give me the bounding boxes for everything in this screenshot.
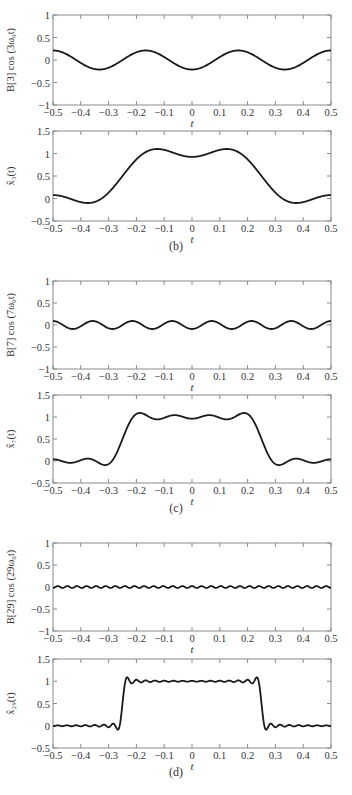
y-tick-label: −0.5 [31, 78, 50, 89]
plot-d-harmonic: −0.5−0.4−0.3−0.2−0.100.10.20.30.40.5−1−0… [5, 538, 338, 655]
x-axis-label: t [190, 117, 194, 129]
x-tick-label: 0.1 [213, 107, 226, 118]
y-tick-label: −0.5 [31, 216, 50, 227]
y-tick-label: −0.5 [31, 604, 50, 615]
x-tick-label: −0.4 [71, 485, 91, 496]
x-tick-label: −0.2 [127, 107, 146, 118]
y-tick-label: 1 [45, 149, 50, 160]
x-tick-label: −0.3 [99, 223, 118, 234]
y-tick-label: 1.5 [37, 654, 50, 665]
x-tick-label: 0.1 [213, 223, 226, 234]
panel-caption-b: (b) [0, 239, 352, 254]
signal-curve [53, 677, 331, 729]
x-tick-label: 0.1 [213, 633, 226, 644]
x-tick-label: −0.4 [71, 371, 91, 382]
x-tick-label: 0.2 [241, 750, 254, 761]
x-tick-label: −0.4 [71, 750, 91, 761]
x-tick-label: 0.5 [324, 750, 337, 761]
x-tick-label: 0.2 [241, 633, 254, 644]
x-tick-label: 0.5 [324, 223, 337, 234]
x-tick-label: 0.4 [297, 223, 311, 234]
signal-curve [53, 413, 331, 465]
y-tick-label: 0 [45, 721, 50, 732]
x-tick-label: 0.4 [297, 107, 311, 118]
y-axis-label: x̂₃(t) [5, 166, 17, 185]
y-axis-label: x̂₂₉(t) [5, 692, 17, 715]
x-tick-label: −0.2 [127, 371, 146, 382]
signal-curve [53, 586, 331, 588]
y-tick-label: 0.5 [37, 33, 50, 44]
signal-curve [53, 149, 331, 203]
x-tick-label: 0.4 [297, 633, 311, 644]
y-tick-label: −0.5 [31, 478, 50, 489]
x-tick-label: 0.3 [269, 223, 282, 234]
x-tick-label: 0.3 [269, 633, 282, 644]
x-tick-label: 0.4 [297, 485, 311, 496]
x-tick-label: −0.3 [99, 371, 118, 382]
x-tick-label: 0.3 [269, 750, 282, 761]
y-tick-label: 0 [45, 320, 50, 331]
plot-b-harmonic: −0.5−0.4−0.3−0.2−0.100.10.20.30.40.5−1−0… [5, 10, 338, 129]
x-axis-label: t [190, 643, 194, 655]
x-tick-label: −0.4 [71, 107, 91, 118]
x-tick-label: −0.4 [71, 223, 91, 234]
x-tick-label: 0.2 [241, 107, 254, 118]
y-tick-label: 0.5 [37, 171, 50, 182]
x-tick-label: 0.5 [324, 107, 337, 118]
y-tick-label: −0.5 [31, 743, 50, 754]
signal-curve [53, 50, 331, 69]
plot-frame [53, 281, 331, 369]
y-tick-label: 0 [45, 456, 50, 467]
x-tick-label: −0.1 [155, 485, 174, 496]
x-tick-label: 0.5 [324, 485, 337, 496]
y-tick-label: 1.5 [37, 390, 50, 401]
x-tick-label: −0.1 [155, 750, 174, 761]
x-tick-label: −0.1 [155, 107, 174, 118]
y-tick-label: 0.5 [37, 560, 50, 571]
y-tick-label: 0 [45, 582, 50, 593]
y-tick-label: 0.5 [37, 298, 50, 309]
x-tick-label: 0.2 [241, 485, 254, 496]
y-tick-label: 1 [45, 10, 50, 21]
x-tick-label: −0.1 [155, 633, 174, 644]
y-tick-label: 1 [45, 538, 50, 549]
y-tick-label: −1 [39, 100, 50, 111]
plot-frame [53, 659, 331, 748]
x-tick-label: −0.3 [99, 485, 118, 496]
y-tick-label: 1 [45, 276, 50, 287]
x-tick-label: 0.5 [324, 371, 337, 382]
x-tick-label: −0.2 [127, 633, 146, 644]
y-tick-label: 1.5 [37, 126, 50, 137]
x-tick-label: 0.2 [241, 223, 254, 234]
y-axis-label: B[7] cos (7ω₀t) [5, 292, 17, 357]
y-tick-label: −0.5 [31, 342, 50, 353]
x-tick-label: −0.2 [127, 223, 146, 234]
plot-c-partial-sum: −0.5−0.4−0.3−0.2−0.100.10.20.30.40.5−0.5… [5, 390, 338, 507]
y-axis-label: B[3] cos (3ω₀t) [5, 27, 17, 92]
plot-b-partial-sum: −0.5−0.4−0.3−0.2−0.100.10.20.30.40.5−0.5… [5, 126, 338, 245]
x-tick-label: −0.2 [127, 485, 146, 496]
x-tick-label: 0.4 [297, 371, 311, 382]
x-tick-label: 0.1 [213, 750, 226, 761]
x-axis-label: t [190, 381, 194, 393]
y-tick-label: 1 [45, 412, 50, 423]
y-tick-label: 0.5 [37, 434, 50, 445]
y-tick-label: 0 [45, 55, 50, 66]
x-tick-label: 0.1 [213, 371, 226, 382]
x-tick-label: 0.1 [213, 485, 226, 496]
y-axis-label: x̂₇(t) [5, 429, 17, 448]
panel-caption-d: (d) [0, 765, 352, 780]
x-tick-label: −0.4 [71, 633, 91, 644]
x-tick-label: 0.5 [324, 633, 337, 644]
plot-frame [53, 131, 331, 221]
plot-frame [53, 15, 331, 105]
plot-frame [53, 395, 331, 483]
figure-canvas: −0.5−0.4−0.3−0.2−0.100.10.20.30.40.5−1−0… [0, 0, 352, 795]
x-tick-label: 0.2 [241, 371, 254, 382]
x-tick-label: −0.3 [99, 107, 118, 118]
x-tick-label: 0.3 [269, 107, 282, 118]
panel-caption-c: (c) [0, 501, 352, 516]
y-tick-label: 0 [45, 194, 50, 205]
x-tick-label: −0.2 [127, 750, 146, 761]
plot-d-partial-sum: −0.5−0.4−0.3−0.2−0.100.10.20.30.40.5−0.5… [5, 654, 338, 772]
